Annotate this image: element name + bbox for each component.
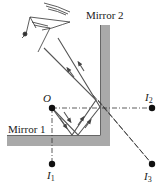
eye-icon — [22, 3, 70, 52]
mirror-2 — [100, 25, 110, 146]
two-mirror-diagram: Mirror 2 Mirror 1 O I1 I2 I3 — [0, 0, 167, 188]
object-point — [49, 105, 55, 111]
mirror-1 — [7, 135, 110, 146]
mirror-1-label: Mirror 1 — [8, 124, 46, 135]
object-label: O — [43, 93, 51, 104]
light-rays — [44, 38, 100, 135]
image1-label: I1 — [47, 170, 55, 183]
image2-label: I2 — [145, 92, 153, 105]
image2-point — [149, 105, 155, 111]
mirror-2-label: Mirror 2 — [86, 10, 124, 21]
image1-point — [49, 161, 55, 167]
diagram-canvas — [0, 0, 167, 188]
image3-point — [149, 161, 155, 167]
image3-label: I3 — [144, 171, 152, 184]
